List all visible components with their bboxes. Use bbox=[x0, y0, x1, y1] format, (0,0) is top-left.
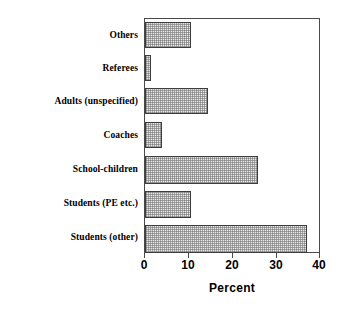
category-axis-labels: Others Referees Adults (unspecified) Coa… bbox=[0, 18, 138, 253]
bar-others[interactable] bbox=[145, 22, 191, 48]
tick-label-20: 20 bbox=[212, 258, 252, 272]
bar-row bbox=[145, 22, 319, 48]
bar-row bbox=[145, 88, 319, 114]
bar-students-other[interactable] bbox=[145, 225, 307, 253]
bar-row bbox=[145, 191, 319, 218]
bar-row bbox=[145, 55, 319, 81]
bar-referees[interactable] bbox=[145, 55, 151, 81]
tick-label-10: 10 bbox=[168, 258, 208, 272]
x-axis-title: Percent bbox=[144, 281, 320, 295]
bar-row bbox=[145, 122, 319, 148]
category-label-school-children: School-children bbox=[0, 164, 138, 174]
category-label-others: Others bbox=[0, 30, 138, 40]
bar-row bbox=[145, 225, 319, 253]
category-label-students-pe: Students (PE etc.) bbox=[0, 198, 138, 208]
category-label-students-other: Students (other) bbox=[0, 232, 138, 242]
category-label-referees: Referees bbox=[0, 63, 138, 73]
plot-area bbox=[144, 18, 320, 253]
category-label-coaches: Coaches bbox=[0, 130, 138, 140]
category-label-adults-unspecified: Adults (unspecified) bbox=[0, 96, 138, 106]
tick-label-30: 30 bbox=[256, 258, 296, 272]
bar-chart: Others Referees Adults (unspecified) Coa… bbox=[0, 0, 348, 310]
bar-coaches[interactable] bbox=[145, 122, 162, 148]
tick-label-0: 0 bbox=[124, 258, 164, 272]
bar-school-children[interactable] bbox=[145, 156, 258, 184]
bar-adults-unspecified[interactable] bbox=[145, 88, 208, 114]
tick-label-40: 40 bbox=[299, 258, 339, 272]
bar-students-pe[interactable] bbox=[145, 191, 191, 218]
bar-row bbox=[145, 156, 319, 184]
